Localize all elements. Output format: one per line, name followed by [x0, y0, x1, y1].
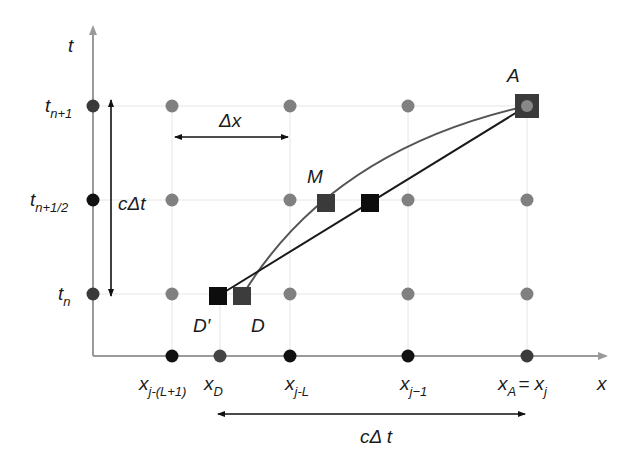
svg-text:xj−1: xj−1 — [399, 373, 427, 399]
svg-text:xj-(L+1): xj-(L+1) — [138, 373, 186, 399]
svg-text:cΔt: cΔt — [118, 193, 146, 214]
point-midpoint-straight — [361, 194, 379, 212]
point-d — [233, 287, 251, 305]
svg-text:D: D — [251, 315, 265, 336]
svg-text:D′: D′ — [193, 315, 212, 336]
svg-text:xD: xD — [203, 373, 223, 399]
svg-text:xj-L: xj-L — [284, 373, 309, 399]
x-tick-labels: xj-(L+1) xD xj-L xj−1 xA= xj — [138, 373, 548, 399]
svg-text:xA= xj: xA= xj — [497, 373, 548, 399]
svg-text:tn+1/2: tn+1/2 — [30, 189, 69, 215]
svg-text:A: A — [506, 65, 520, 86]
t-tick-labels: tn+1 tn+1/2 tn — [30, 95, 72, 309]
x-axis-label: x — [596, 373, 608, 394]
svg-text:M: M — [307, 166, 323, 187]
svg-text:tn: tn — [58, 283, 71, 309]
svg-text:tn+1: tn+1 — [45, 95, 72, 121]
svg-text:Δx: Δx — [218, 110, 243, 131]
point-m — [317, 194, 335, 212]
svg-text:cΔ t: cΔ t — [360, 426, 393, 447]
characteristic-diagram: t x tn+1 tn+1/2 tn xj-(L+1) xD — [0, 0, 644, 461]
point-d-prime — [209, 287, 227, 305]
t-axis-label: t — [68, 35, 74, 56]
grid-lines — [93, 106, 527, 356]
